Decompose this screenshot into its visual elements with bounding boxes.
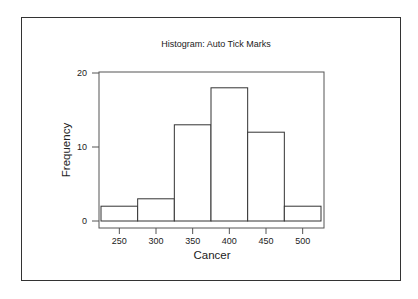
y-tick-label: 20 xyxy=(77,68,87,78)
histogram-bar xyxy=(211,88,248,221)
histogram-bar xyxy=(284,206,321,221)
x-tick-label: 350 xyxy=(185,236,200,246)
y-axis-label: Frequency xyxy=(60,123,72,178)
y-tick-label: 0 xyxy=(82,216,87,226)
y-tick-label: 10 xyxy=(77,142,87,152)
x-axis: 250300350400450500 xyxy=(112,228,310,246)
x-axis-label: Cancer xyxy=(193,249,230,261)
histogram-chart: Histogram: Auto Tick Marks 01020 2503003… xyxy=(0,0,418,299)
y-axis: 01020 xyxy=(77,68,99,226)
histogram-bar xyxy=(174,125,211,221)
chart-title: Histogram: Auto Tick Marks xyxy=(161,39,271,49)
x-tick-label: 450 xyxy=(258,236,273,246)
histogram-bars xyxy=(101,88,321,221)
histogram-bar xyxy=(101,206,138,221)
x-tick-label: 300 xyxy=(148,236,163,246)
x-tick-label: 250 xyxy=(112,236,127,246)
x-tick-label: 500 xyxy=(295,236,310,246)
x-tick-label: 400 xyxy=(222,236,237,246)
histogram-bar xyxy=(138,199,175,221)
histogram-bar xyxy=(248,132,285,221)
